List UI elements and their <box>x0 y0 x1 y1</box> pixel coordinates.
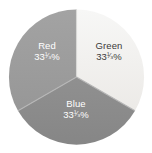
pie-chart-graphic <box>0 0 152 153</box>
pie-chart: Green 33¹⁄₃% Red 33¹⁄₃% Blue 33¹⁄₃% <box>0 0 152 153</box>
